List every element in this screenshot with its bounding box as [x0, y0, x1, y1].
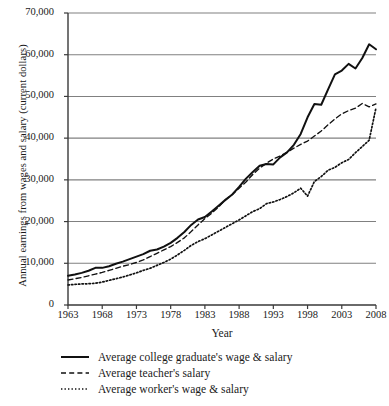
- y-axis-tick-labels: 010,00020,00030,00040,00050,00060,00070,…: [0, 0, 62, 320]
- series-line-1: [68, 44, 376, 276]
- legend-label: Average college graduate's wage & salary: [98, 351, 292, 363]
- x-tick-label: 1983: [194, 310, 215, 321]
- y-tick-label: 60,000: [25, 49, 62, 60]
- x-tick-label: 1988: [229, 310, 250, 321]
- legend-label: Average worker's wage & salary: [98, 383, 249, 395]
- y-tick-label: 20,000: [25, 216, 62, 227]
- y-tick-label: 50,000: [25, 90, 62, 101]
- y-tick-label: 10,000: [25, 257, 62, 268]
- y-tick-label: 30,000: [25, 174, 62, 185]
- legend-line-swatch: [60, 367, 90, 379]
- legend-item: Average college graduate's wage & salary: [60, 349, 380, 365]
- x-axis-label: Year: [68, 327, 376, 339]
- legend-line-swatch: [60, 383, 90, 395]
- x-tick-label: 1998: [297, 310, 318, 321]
- legend-label: Average teacher's salary: [98, 367, 210, 379]
- legend-line-swatch: [60, 351, 90, 363]
- x-tick-label: 1978: [160, 310, 181, 321]
- series-line-3: [68, 108, 376, 285]
- x-tick-label: 1963: [58, 310, 79, 321]
- x-tick-label: 1993: [263, 310, 284, 321]
- y-tick-label: 70,000: [25, 7, 62, 18]
- y-tick-label: 40,000: [25, 132, 62, 143]
- x-tick-label: 2003: [331, 310, 352, 321]
- x-tick-label: 1973: [126, 310, 147, 321]
- series-line-2: [68, 104, 376, 280]
- y-tick-label: 0: [49, 299, 62, 310]
- legend-item: Average worker's wage & salary: [60, 381, 380, 397]
- chart-legend: Average college graduate's wage & salary…: [60, 349, 380, 397]
- chart-figure: Annual earnings from wages and salary (c…: [0, 0, 389, 406]
- x-tick-label: 2008: [366, 310, 387, 321]
- axis-lines: [68, 13, 376, 305]
- legend-item: Average teacher's salary: [60, 365, 380, 381]
- x-tick-label: 1968: [92, 310, 113, 321]
